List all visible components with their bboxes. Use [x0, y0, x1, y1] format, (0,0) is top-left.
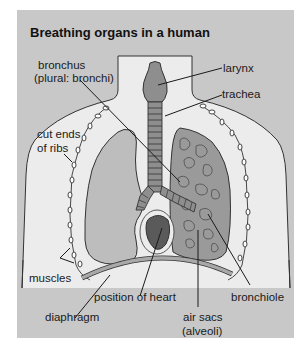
- label-position-of-heart: position of heart: [94, 291, 177, 303]
- label-bronchiole: bronchiole: [231, 291, 284, 303]
- label-muscles: muscles: [29, 272, 71, 284]
- label-larynx: larynx: [223, 62, 254, 74]
- breathing-organs-diagram: Breathing organs in a human: [0, 0, 308, 358]
- label-alveoli: (alveoli): [182, 325, 222, 337]
- label-bronchus-plural: (plural: bronchi): [34, 72, 114, 84]
- label-of-ribs: of ribs: [37, 142, 69, 154]
- trachea: [148, 102, 162, 192]
- diagram-title: Breathing organs in a human: [30, 25, 210, 40]
- label-bronchus: bronchus: [38, 59, 86, 71]
- label-air-sacs: air sacs: [183, 311, 223, 323]
- label-trachea: trachea: [222, 88, 261, 100]
- label-cut-ends: cut ends: [37, 128, 81, 140]
- label-diaphragm: diaphragm: [45, 311, 99, 323]
